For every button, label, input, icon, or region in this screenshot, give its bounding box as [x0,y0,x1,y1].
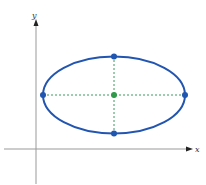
x-axis-label: x [195,145,200,154]
bottom-co-vertex-point [111,131,117,137]
y-axis-label: y [31,11,37,20]
left-vertex-point [40,92,46,98]
center-point [111,92,117,98]
ellipse-diagram: y x [0,0,206,185]
top-co-vertex-point [111,54,117,60]
y-axis-arrow-icon [34,19,39,26]
x-axis-arrow-icon [186,147,193,152]
right-vertex-point [182,92,188,98]
